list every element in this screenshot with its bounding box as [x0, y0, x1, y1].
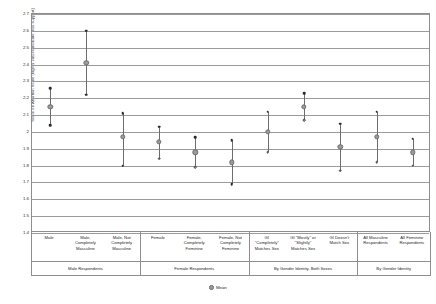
y-tick-label: 2.5 — [23, 45, 29, 49]
gridline — [32, 132, 429, 133]
y-tick-label: 1.5 — [23, 214, 29, 218]
category-label: Male, NotCompletelyMasculine — [104, 232, 140, 262]
group-separator — [31, 262, 32, 276]
group-separator — [249, 262, 250, 276]
gridline — [32, 14, 429, 15]
group-label: Female Respondents — [140, 262, 249, 276]
group-label: By Gender Identity, Both Sexes — [249, 262, 358, 276]
y-tick-label: 1.7 — [23, 180, 29, 184]
upper-bound-marker — [158, 126, 161, 129]
mean-marker — [265, 129, 270, 134]
upper-bound-marker — [194, 136, 197, 139]
chart-legend: Mean — [0, 285, 436, 290]
category-label: Male,CompletelyMasculine — [67, 232, 103, 262]
y-tick-label: 1.8 — [23, 163, 29, 167]
lower-bound-marker — [266, 151, 269, 154]
category-group-separator — [140, 232, 141, 262]
y-tick-label: 2.3 — [23, 79, 29, 83]
upper-bound-marker — [375, 110, 378, 113]
gridline — [32, 216, 429, 217]
y-tick-label: 2.7 — [23, 12, 29, 16]
range-line — [123, 113, 124, 165]
upper-bound-marker — [266, 110, 269, 113]
y-tick-label: 2.4 — [23, 62, 29, 66]
lower-bound-marker — [375, 161, 378, 164]
gridline — [32, 81, 429, 82]
category-label: Female,CompletelyFeminine — [176, 232, 212, 262]
y-tick-label: 1.6 — [23, 197, 29, 201]
category-label: GI "Mostly" or"Slightly"Matches Sex — [285, 232, 321, 262]
upper-bound-marker — [85, 30, 88, 33]
gridline — [32, 166, 429, 167]
mean-marker-icon — [209, 285, 214, 290]
mean-marker — [301, 104, 306, 109]
y-tick-label: 2.2 — [23, 96, 29, 100]
category-group-separator — [249, 232, 250, 262]
y-tick-label: 1.9 — [23, 147, 29, 151]
category-label: Male — [31, 232, 67, 262]
group-label: Male Respondents — [31, 262, 140, 276]
lower-bound-marker — [194, 166, 197, 169]
category-label: GI"Completely"Matches Sex — [249, 232, 285, 262]
category-group-separator — [357, 232, 358, 262]
y-tick-label: 2.1 — [23, 113, 29, 117]
lower-bound-marker — [230, 183, 233, 186]
mean-marker — [120, 134, 125, 139]
mean-marker — [410, 149, 415, 154]
upper-bound-marker — [303, 92, 306, 95]
category-axis: MaleMale,CompletelyMasculineMale, NotCom… — [31, 232, 430, 262]
category-label: All MasculineRespondents — [357, 232, 393, 262]
lower-bound-marker — [158, 158, 161, 161]
gridline — [32, 48, 429, 49]
category-label: GI Doesn'tMatch Sex — [321, 232, 357, 262]
category-group-separator — [430, 232, 431, 262]
category-label: Female — [140, 232, 176, 262]
mean-marker — [193, 149, 198, 154]
gridline — [32, 115, 429, 116]
gridline — [32, 31, 429, 32]
lower-bound-marker — [303, 119, 306, 122]
mean-marker — [374, 134, 379, 139]
category-group-separator — [31, 232, 32, 262]
lower-bound-marker — [339, 169, 342, 172]
upper-bound-marker — [412, 137, 415, 140]
lower-bound-marker — [85, 94, 88, 97]
lower-bound-marker — [121, 164, 124, 167]
category-label: Female, NotCompletelyFeminine — [212, 232, 248, 262]
upper-bound-marker — [339, 122, 342, 125]
abortion-scale-range-chart: Score on Abortion Scale (higher values i… — [0, 0, 436, 304]
gridline — [32, 149, 429, 150]
legend-label-mean: Mean — [216, 285, 227, 290]
upper-bound-marker — [49, 87, 52, 90]
gridline — [32, 98, 429, 99]
mean-marker — [156, 139, 161, 144]
y-tick-label: 2 — [27, 130, 29, 134]
group-label: By Gender Identity — [357, 262, 430, 276]
category-label: All FeminineRespondents — [394, 232, 430, 262]
plot-area: 2.72.62.52.42.32.22.121.91.81.71.61.51.4 — [31, 13, 430, 232]
lower-bound-marker — [412, 164, 415, 167]
group-separator — [357, 262, 358, 276]
gridline — [32, 65, 429, 66]
y-tick-label: 1.4 — [23, 231, 29, 235]
lower-bound-marker — [49, 124, 52, 127]
group-separator — [430, 262, 431, 276]
y-tick-label: 2.6 — [23, 29, 29, 33]
mean-marker — [229, 160, 234, 165]
mean-marker — [47, 104, 52, 109]
upper-bound-marker — [121, 112, 124, 115]
group-axis: Male RespondentsFemale RespondentsBy Gen… — [31, 262, 430, 276]
group-separator — [140, 262, 141, 276]
upper-bound-marker — [230, 139, 233, 142]
gridline — [32, 199, 429, 200]
